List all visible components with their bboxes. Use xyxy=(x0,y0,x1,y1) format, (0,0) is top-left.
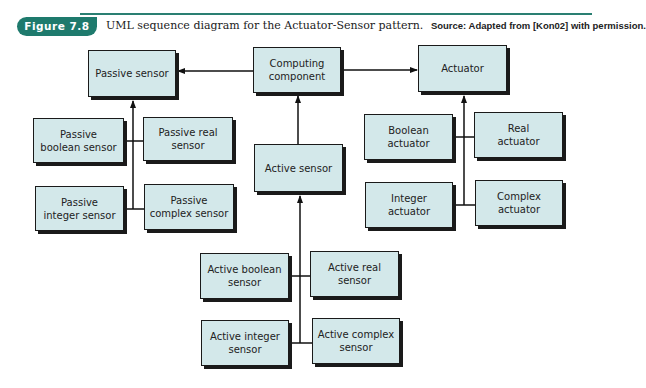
computing-component-box: Computing component xyxy=(253,47,341,93)
active-boolean-sensor-box: Active boolean sensor xyxy=(200,253,289,299)
active-real-sensor-box: Active real sensor xyxy=(310,251,399,297)
active-sensor-box: Active sensor xyxy=(254,144,343,192)
complex-actuator-box: Complex actuator xyxy=(475,180,563,226)
passive-real-sensor-box: Passive real sensor xyxy=(143,117,233,161)
passive-boolean-sensor-box: Passive boolean sensor xyxy=(33,118,124,163)
real-actuator-box: Real actuator xyxy=(474,112,563,158)
active-complex-sensor-box: Active complex sensor xyxy=(312,318,400,364)
passive-sensor-box: Passive sensor xyxy=(88,50,176,97)
actuator-box: Actuator xyxy=(418,45,507,92)
boolean-actuator-box: Boolean actuator xyxy=(364,114,453,160)
passive-complex-sensor-box: Passive complex sensor xyxy=(144,184,234,230)
active-integer-sensor-box: Active integer sensor xyxy=(201,320,289,366)
integer-actuator-box: Integer actuator xyxy=(365,182,453,228)
passive-integer-sensor-box: Passive integer sensor xyxy=(35,186,124,231)
